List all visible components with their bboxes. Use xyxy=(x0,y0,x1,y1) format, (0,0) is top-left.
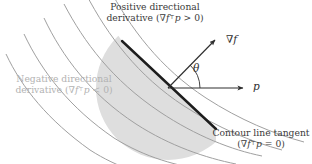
relation-symbol: < 0 xyxy=(90,84,109,95)
label-negative-suffix: ) xyxy=(109,84,113,95)
label-negative-directional-derivative: Negative directional derivative (∇f⊤p < … xyxy=(4,74,124,96)
label-angle-theta: θ xyxy=(193,62,199,74)
label-negative-line2: derivative (∇f⊤p < 0) xyxy=(4,85,124,96)
label-contour-suffix: ) xyxy=(281,138,285,149)
directional-derivative-diagram: Positive directional derivative (∇f⊤p > … xyxy=(0,0,312,164)
function-symbol-f: f xyxy=(233,33,237,45)
label-positive-suffix: ) xyxy=(200,12,204,23)
relation-symbol: > 0 xyxy=(181,12,200,23)
gradient-vector xyxy=(168,40,215,88)
label-negative-prefix: derivative ( xyxy=(15,84,68,95)
label-contour-line2: (∇f⊤p = 0) xyxy=(212,139,310,150)
label-direction-vector: p xyxy=(253,80,260,92)
label-positive-prefix: derivative ( xyxy=(106,12,159,23)
relation-symbol: = 0 xyxy=(262,138,281,149)
label-gradient-vector: ∇f xyxy=(226,33,237,45)
label-contour-line-tangent: Contour line tangent (∇f⊤p = 0) xyxy=(212,128,310,150)
label-positive-directional-derivative: Positive directional derivative (∇f⊤p > … xyxy=(88,2,222,24)
label-positive-line2: derivative (∇f⊤p > 0) xyxy=(88,13,222,24)
